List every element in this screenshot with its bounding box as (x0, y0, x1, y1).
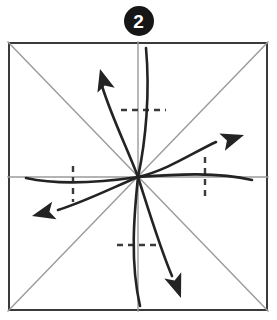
fold-diagram-canvas (0, 0, 277, 320)
origami-step-figure: 2 (0, 0, 277, 320)
